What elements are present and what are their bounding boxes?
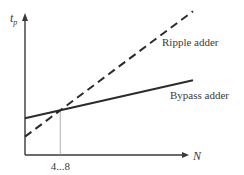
y-axis-arrow-icon xyxy=(22,13,28,21)
y-axis-title: tp xyxy=(10,11,17,27)
series-line-bypass-adder xyxy=(25,80,193,118)
series-line-ripple-adder xyxy=(25,11,193,136)
series-label-ripple-adder: Ripple adder xyxy=(162,36,219,48)
chart: tp N 4...8 Ripple adder Bypass adder xyxy=(0,0,244,175)
x-axis-arrow-icon xyxy=(182,152,189,158)
x-tick-label: 4...8 xyxy=(51,160,71,172)
x-axis-title: N xyxy=(192,149,202,163)
series-label-bypass-adder: Bypass adder xyxy=(170,89,229,101)
